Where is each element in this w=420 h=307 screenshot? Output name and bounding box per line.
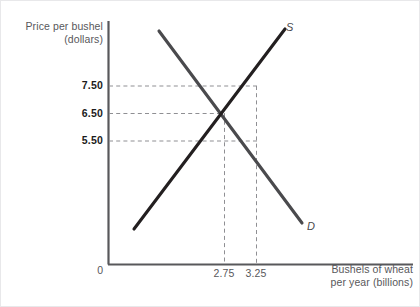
supply-demand-plot: [1, 1, 420, 307]
y-axis-title: Price per bushel (dollars): [9, 20, 103, 45]
y-tick-label-650: 6.50: [43, 108, 103, 119]
x-axis-title-line1: Bushels of wheat: [301, 263, 413, 276]
origin-label: 0: [89, 264, 103, 276]
y-axis-title-line1: Price per bushel: [9, 20, 103, 33]
x-tick-label-325: 3.25: [233, 267, 279, 279]
supply-curve-label: S: [286, 21, 293, 33]
supply-curve: [134, 29, 285, 229]
chart-figure: Price per bushel (dollars) Bushels of wh…: [0, 0, 420, 307]
demand-curve-label: D: [307, 220, 315, 232]
y-tick-label-750: 7.50: [43, 80, 103, 91]
x-axis-title: Bushels of wheat per year (billions): [301, 263, 413, 288]
demand-curve: [159, 31, 302, 223]
y-axis-title-line2: (dollars): [9, 33, 103, 46]
x-axis-title-line2: per year (billions): [301, 276, 413, 289]
y-tick-label-550: 5.50: [43, 135, 103, 146]
